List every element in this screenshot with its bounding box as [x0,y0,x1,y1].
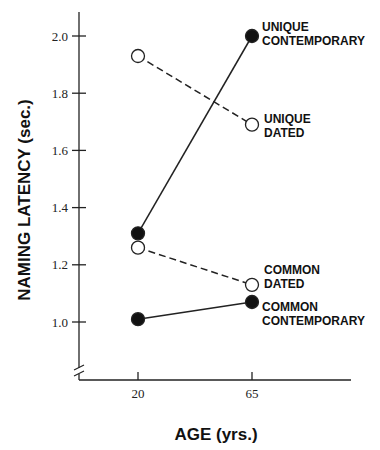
filled-circle-marker [246,30,259,43]
x-tick-label: 20 [132,386,145,401]
y-tick-label: 1.0 [52,315,68,330]
series-line [138,302,252,319]
series-line [138,36,252,233]
open-circle-marker [246,118,259,131]
series-label: DATED [264,126,305,140]
y-tick-label: 1.4 [52,200,69,215]
y-ticks: 1.01.21.41.61.82.0 [52,29,86,330]
x-ticks: 2065 [132,372,259,401]
open-circle-marker [132,241,145,254]
y-axis-title: NAMING LATENCY (sec.) [15,99,34,301]
y-tick-label: 1.2 [52,257,68,272]
y-tick-label: 1.6 [52,143,69,158]
series-group: UNIQUECONTEMPORARYUNIQUEDATEDCOMMONDATED… [132,20,365,328]
open-circle-marker [246,278,259,291]
series-label: COMMON [264,263,320,277]
series-label: CONTEMPORARY [262,314,365,328]
series-common-contemporary: COMMONCONTEMPORARY [132,295,365,328]
series-common-dated: COMMONDATED [132,241,321,291]
filled-circle-marker [132,313,145,326]
y-tick-label: 1.8 [52,86,68,101]
y-tick-label: 2.0 [52,29,68,44]
series-label: UNIQUE [264,112,311,126]
x-axis-title: AGE (yrs.) [174,425,257,444]
series-label: DATED [264,277,305,291]
line-chart: 1.01.21.41.61.82.0 2065 UNIQUECONTEMPORA… [0,0,380,450]
x-tick-label: 65 [246,386,259,401]
filled-circle-marker [246,295,259,308]
series-label: COMMON [262,300,318,314]
series-label: UNIQUE [262,20,309,34]
series-line [138,248,252,285]
open-circle-marker [132,50,145,63]
series-label: CONTEMPORARY [262,34,365,48]
series-unique-dated: UNIQUEDATED [132,50,311,140]
filled-circle-marker [132,227,145,240]
